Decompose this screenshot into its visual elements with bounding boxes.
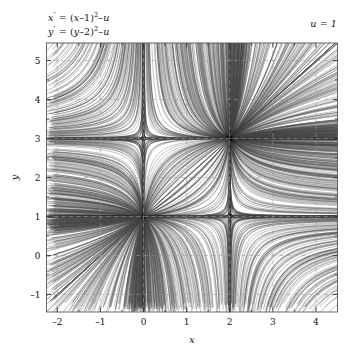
x-tick-label: –2: [52, 317, 62, 327]
y-tick-label: 2: [35, 173, 41, 183]
y-tick-label: 5: [35, 56, 41, 66]
y-tick-label: –1: [30, 290, 40, 300]
x-tick-label: 3: [270, 317, 276, 327]
y-axis-title: y: [9, 174, 20, 181]
phase-portrait-plot: –2–101234–1012345xy: [0, 0, 353, 358]
x-tick-label: 0: [141, 317, 147, 327]
y-tick-label: 0: [35, 251, 41, 261]
x-tick-label: 2: [227, 317, 233, 327]
trajectory-layer: [46, 28, 353, 313]
figure-container: x′ = (x–1)2–u y′ = (y–2)2–u u = 1 –2–101…: [0, 0, 353, 358]
y-tick-label: 4: [35, 95, 41, 105]
x-tick-label: 4: [313, 317, 319, 327]
y-tick-label: 1: [35, 212, 41, 222]
x-tick-label: –1: [95, 317, 105, 327]
plot-svg: –2–101234–1012345xy: [0, 0, 353, 358]
x-tick-label: 1: [184, 317, 190, 327]
x-axis-title: x: [189, 334, 195, 345]
y-tick-label: 3: [35, 134, 41, 144]
